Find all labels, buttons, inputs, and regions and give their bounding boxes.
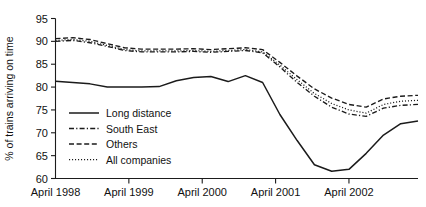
y-tick-label: 95 (36, 13, 48, 25)
chart-canvas: 6065707580859095April 1998April 1999Apri… (0, 0, 426, 207)
x-tick-label: April 2002 (324, 186, 374, 198)
x-tick-label: April 1998 (31, 186, 81, 198)
y-tick-label: 70 (36, 127, 48, 139)
legend-label: South East (106, 123, 157, 135)
y-tick-label: 90 (36, 35, 48, 47)
legend-label: All companies (106, 154, 171, 166)
x-tick-label: April 2000 (177, 186, 227, 198)
legend-label: Others (106, 138, 138, 150)
legend-label: Long distance (106, 107, 172, 119)
y-tick-label: 65 (36, 150, 48, 162)
x-tick-label: April 2001 (251, 186, 301, 198)
y-axis-title: % of trains arriving on time (3, 36, 15, 160)
series-line-others (56, 38, 419, 107)
y-tick-label: 75 (36, 104, 48, 116)
y-tick-label: 85 (36, 58, 48, 70)
y-tick-label: 60 (36, 173, 48, 185)
train-punctuality-line-chart: 6065707580859095April 1998April 1999Apri… (0, 0, 426, 207)
x-tick-label: April 1999 (104, 186, 154, 198)
y-tick-label: 80 (36, 81, 48, 93)
